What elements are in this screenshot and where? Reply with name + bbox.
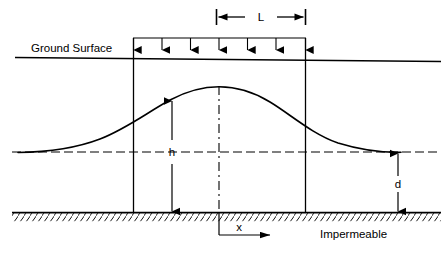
dimension-h-group: h xyxy=(169,101,175,212)
dimension-L-label: L xyxy=(258,11,265,23)
dimension-L-group: L xyxy=(217,9,306,25)
dimension-d-group: d xyxy=(395,154,401,212)
ground-surface-line xyxy=(15,58,441,62)
recharge-load-group xyxy=(133,38,306,50)
diagram-canvas: L Ground Surface xyxy=(0,0,445,258)
impermeable-hatching xyxy=(12,213,441,221)
dimension-d-label: d xyxy=(395,178,401,190)
impermeable-base-group xyxy=(12,213,441,222)
ground-surface-group xyxy=(15,58,441,62)
water-table-mound-curve xyxy=(18,87,401,153)
groundwater-mound-diagram: L Ground Surface xyxy=(0,0,445,258)
impermeable-label: Impermeable xyxy=(320,228,387,240)
ground-surface-label: Ground Surface xyxy=(31,42,112,54)
x-axis-label: x xyxy=(236,221,242,233)
dimension-h-label: h xyxy=(169,146,175,158)
